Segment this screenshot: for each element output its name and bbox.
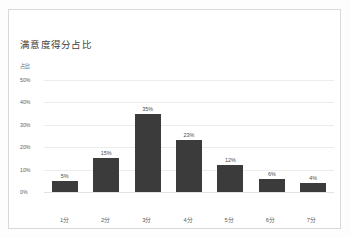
chart-card: 满意度得分占比 占比 50%40%30%20%10%0% 5%15%35%23%… — [8, 9, 341, 229]
bar[interactable] — [135, 114, 161, 192]
bar-value-label: 12% — [225, 157, 236, 163]
y-axis-tick: 20% — [20, 144, 42, 150]
x-axis-tick-labels: 1分2分3分4分5分6分7分 — [44, 215, 332, 229]
bar[interactable] — [93, 158, 119, 192]
bar-value-label: 23% — [184, 132, 195, 138]
bar[interactable] — [52, 181, 78, 192]
bar-series: 5%15%35%23%12%6%4% — [44, 62, 334, 210]
bar-slot: 35% — [127, 62, 168, 210]
bar-value-label: 15% — [101, 150, 112, 156]
bar[interactable] — [300, 183, 326, 192]
bar-value-label: 4% — [309, 175, 317, 181]
y-axis-tick: 0% — [20, 189, 42, 195]
chart-title: 满意度得分占比 — [20, 37, 92, 51]
bar-slot: 15% — [85, 62, 126, 210]
bar-slot: 12% — [210, 62, 251, 210]
x-axis-tick: 4分 — [183, 215, 192, 224]
bar[interactable] — [217, 165, 243, 192]
bar-value-label: 5% — [61, 173, 69, 179]
y-axis-title: 占比 — [20, 62, 30, 69]
bar[interactable] — [176, 140, 202, 192]
x-axis-tick: 1分 — [60, 215, 69, 224]
plot-area: 占比 50%40%30%20%10%0% 5%15%35%23%12%6%4% — [9, 62, 342, 210]
screenshot-root: 满意度得分占比 占比 50%40%30%20%10%0% 5%15%35%23%… — [0, 0, 351, 238]
bar[interactable] — [259, 179, 285, 192]
bar-value-label: 6% — [268, 171, 276, 177]
y-axis-tick: 10% — [20, 167, 42, 173]
x-axis-tick: 7分 — [307, 215, 316, 224]
y-axis-tick: 30% — [20, 122, 42, 128]
bar-slot: 5% — [44, 62, 85, 210]
x-axis-tick: 2分 — [101, 215, 110, 224]
bar-slot: 4% — [293, 62, 334, 210]
bar-value-label: 35% — [142, 106, 153, 112]
y-axis-tick: 50% — [20, 77, 42, 83]
bar-slot: 6% — [251, 62, 292, 210]
bar-slot: 23% — [168, 62, 209, 210]
y-axis-tick: 40% — [20, 99, 42, 105]
x-axis-tick: 6分 — [266, 215, 275, 224]
x-axis-tick: 3分 — [142, 215, 151, 224]
x-axis-tick: 5分 — [225, 215, 234, 224]
